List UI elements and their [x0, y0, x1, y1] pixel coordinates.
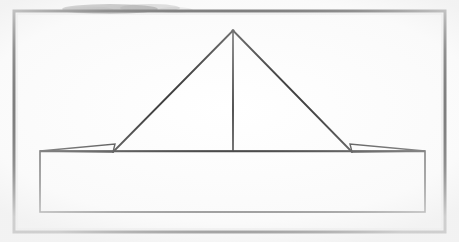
paper-background — [0, 0, 459, 242]
drawing-canvas: Front elevation line drawing Black ink l… — [0, 0, 459, 242]
line-drawing-svg — [0, 0, 459, 242]
